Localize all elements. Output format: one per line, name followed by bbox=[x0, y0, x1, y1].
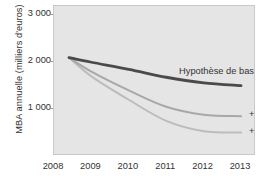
x-tick-label-2010: 2010 bbox=[108, 161, 148, 171]
annotation-hypothese-de-base: Hypothèse de base bbox=[179, 66, 255, 76]
y-tick-label-3000: 3 000 bbox=[5, 8, 51, 18]
x-tick-label-2008: 2008 bbox=[33, 161, 73, 171]
x-tick-label-2013: 2013 bbox=[220, 161, 257, 171]
y-tick-label-2000: 2 000 bbox=[5, 55, 51, 65]
x-tick-label-2009: 2009 bbox=[70, 161, 110, 171]
annotation-plus-2-percent: + 2 % bbox=[249, 109, 255, 119]
annotation-plus-3-percent: + 3 % bbox=[249, 126, 255, 136]
x-tick-label-2011: 2011 bbox=[145, 161, 185, 171]
y-axis-title: MBA annuelle (milliers d'euros) bbox=[14, 0, 24, 144]
x-tick-label-2012: 2012 bbox=[183, 161, 223, 171]
y-tick-label-1000: 1 000 bbox=[5, 102, 51, 112]
plot-area: Hypothèse de base + 2 % + 3 % bbox=[53, 5, 255, 155]
chart-figure: MBA annuelle (milliers d'euros) 3 000 2 … bbox=[0, 0, 257, 186]
series-lines bbox=[54, 6, 255, 155]
